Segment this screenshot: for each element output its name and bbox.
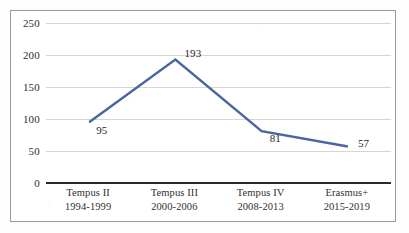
x-axis-category-2: Tempus IV2008-2013 — [218, 186, 304, 214]
data-label-0: 95 — [96, 124, 107, 136]
category-0-line-0: Tempus II — [45, 186, 131, 200]
scanned-page-background: 050100150200250 951938157 Tempus II1994-… — [0, 0, 409, 233]
y-axis-tick-label-100: 100 — [23, 113, 40, 125]
x-axis-category-labels: Tempus II1994-1999Tempus III2000-2006Tem… — [45, 186, 390, 214]
category-2-line-1: 2008-2013 — [218, 200, 304, 214]
category-1-line-1: 2000-2006 — [131, 200, 217, 214]
category-3-line-1: 2015-2019 — [304, 200, 390, 214]
category-3-line-0: Erasmus+ — [304, 186, 390, 200]
category-0-line-1: 1994-1999 — [45, 200, 131, 214]
line-series — [46, 23, 391, 183]
y-axis-tick-label-150: 150 — [23, 81, 40, 93]
data-label-2: 81 — [270, 132, 281, 144]
plot-area: 050100150200250 951938157 — [46, 23, 391, 183]
category-2-line-0: Tempus IV — [218, 186, 304, 200]
series-polyline — [89, 59, 348, 146]
category-1-line-0: Tempus III — [131, 186, 217, 200]
data-label-3: 57 — [358, 137, 369, 149]
y-axis-tick-label-250: 250 — [23, 17, 40, 29]
x-axis-category-0: Tempus II1994-1999 — [45, 186, 131, 214]
x-axis-category-1: Tempus III2000-2006 — [131, 186, 217, 214]
y-axis-tick-label-50: 50 — [29, 145, 40, 157]
x-axis-category-3: Erasmus+2015-2019 — [304, 186, 390, 214]
y-axis-tick-label-200: 200 — [23, 49, 40, 61]
data-label-1: 193 — [184, 47, 201, 59]
y-axis-tick-label-0: 0 — [34, 177, 40, 189]
